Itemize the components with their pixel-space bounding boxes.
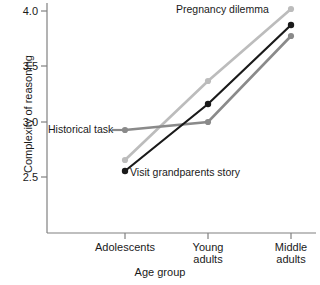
series-line-visit-grandparents-story [125,25,291,171]
data-point-visit-grandparents-story-young-adults [205,101,211,107]
series-pregnancy-dilemma [122,6,294,163]
x-axis-title: Age group [0,266,320,278]
series-label-visit-grandparents-story: Visit grandparents story [130,166,240,178]
series-line-pregnancy-dilemma [125,9,291,160]
data-point-historical-task-middle-adults [288,33,294,39]
x-tick-label-middle-adults: Middle adults [253,242,320,265]
data-point-pregnancy-dilemma-middle-adults [288,6,294,12]
series-label-historical-task: Historical task [48,123,113,135]
x-tick-label-young-adults: Young adults [168,242,248,265]
y-axis-title: Complexity of reasoning [22,34,34,194]
complexity-of-reasoning-line-chart: 4.0 3.5 3.0 2.5 Adolescents Young adults… [0,0,320,285]
series-visit-grandparents-story [122,22,294,174]
data-point-visit-grandparents-story-adolescents [122,168,128,174]
x-tick-label-adolescents: Adolescents [77,242,173,254]
data-point-visit-grandparents-story-middle-adults [288,22,294,28]
series-label-pregnancy-dilemma: Pregnancy dilemma [176,3,269,15]
y-tick-label-4-0: 4.0 [10,5,38,17]
data-point-pregnancy-dilemma-young-adults [205,78,211,84]
data-point-pregnancy-dilemma-adolescents [122,157,128,163]
data-point-historical-task-young-adults [205,119,211,125]
